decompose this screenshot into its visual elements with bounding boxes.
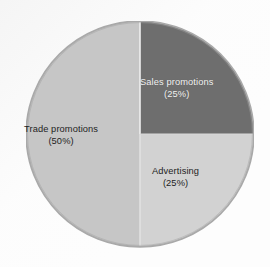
pie-label-sales-promotions-name: Sales promotions bbox=[140, 77, 213, 87]
pie-label-advertising-name: Advertising bbox=[152, 166, 199, 176]
pie-label-sales-promotions: Sales promotions (25%) bbox=[140, 77, 213, 100]
pie-chart-figure: Sales promotions (25%) Trade promotions … bbox=[0, 0, 270, 267]
pie-label-sales-promotions-value: (25%) bbox=[140, 89, 213, 101]
pie-label-advertising-value: (25%) bbox=[152, 178, 199, 190]
pie-label-trade-promotions: Trade promotions (50%) bbox=[24, 124, 98, 147]
pie-label-trade-promotions-value: (50%) bbox=[24, 136, 98, 148]
pie-label-advertising: Advertising (25%) bbox=[152, 166, 199, 189]
pie-label-trade-promotions-name: Trade promotions bbox=[24, 124, 98, 134]
